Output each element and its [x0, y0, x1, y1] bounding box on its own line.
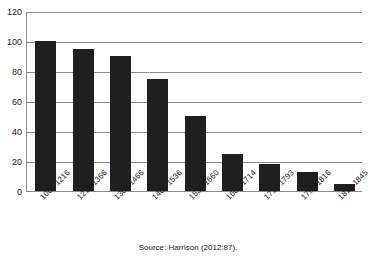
y-tick-label: 80 [0, 68, 22, 77]
y-tick-label: 0 [0, 188, 22, 197]
y-tick-label: 120 [0, 8, 22, 17]
y-tick-label: 40 [0, 128, 22, 137]
bar [73, 49, 94, 192]
bar-chart-figure: 120100806040200 1066-12161216-13661366-1… [0, 0, 376, 260]
y-tick-label: 60 [0, 98, 22, 107]
plot-area [26, 12, 362, 192]
bar [110, 56, 131, 191]
source-caption: Source: Harrison (2012:87). [0, 243, 376, 253]
bar [147, 79, 168, 192]
bars-group [27, 12, 362, 191]
y-tick-label: 20 [0, 158, 22, 167]
x-axis: 1066-12161216-13661366-14661466-15361536… [26, 193, 362, 243]
y-tick-label: 100 [0, 38, 22, 47]
bar [35, 41, 56, 191]
